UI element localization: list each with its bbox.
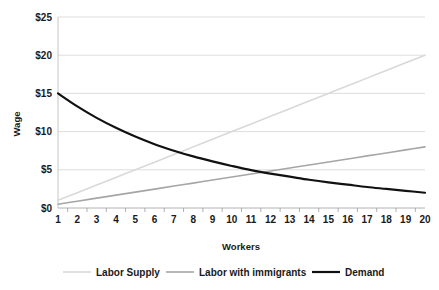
y-axis-title: Wage — [11, 112, 22, 137]
labor-market-line-chart: $0$5$10$15$20$25 12345678910111213141516… — [0, 0, 439, 290]
y-tick-label: $10 — [35, 126, 52, 137]
chart-background — [0, 0, 439, 290]
chart-container: $0$5$10$15$20$25 12345678910111213141516… — [0, 0, 439, 290]
x-tick-label: 6 — [152, 214, 158, 225]
x-tick-label: 12 — [265, 214, 277, 225]
x-tick-label: 14 — [304, 214, 316, 225]
x-tick-label: 19 — [400, 214, 412, 225]
x-tick-label: 7 — [171, 214, 177, 225]
x-tick-label: 20 — [419, 214, 431, 225]
x-tick-label: 3 — [94, 214, 100, 225]
x-axis-title: Workers — [222, 241, 260, 252]
x-tick-label: 5 — [132, 214, 138, 225]
y-tick-label: $0 — [41, 203, 53, 214]
y-tick-label: $15 — [35, 88, 52, 99]
x-tick-label: 2 — [75, 214, 81, 225]
legend-label-labor-supply: Labor Supply — [96, 267, 160, 278]
x-tick-label: 13 — [284, 214, 296, 225]
y-tick-label: $20 — [35, 50, 52, 61]
x-tick-label: 18 — [381, 214, 393, 225]
x-tick-label: 1 — [55, 214, 61, 225]
legend-label-labor-with-immigrants: Labor with immigrants — [199, 267, 307, 278]
x-tick-label: 16 — [342, 214, 354, 225]
legend-label-demand: Demand — [345, 267, 384, 278]
x-tick-label: 8 — [190, 214, 196, 225]
y-tick-label: $25 — [35, 12, 52, 23]
x-tick-label: 17 — [361, 214, 373, 225]
y-tick-label: $5 — [41, 164, 53, 175]
x-tick-label: 4 — [113, 214, 119, 225]
x-tick-label: 9 — [210, 214, 216, 225]
x-tick-label: 11 — [246, 214, 257, 225]
x-tick-label: 10 — [226, 214, 238, 225]
x-tick-label: 15 — [323, 214, 335, 225]
